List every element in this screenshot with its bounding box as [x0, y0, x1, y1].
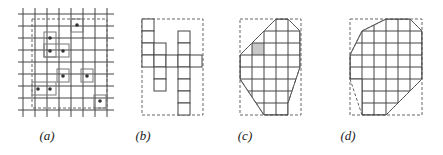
panel-a-point-grid — [18, 8, 114, 117]
panel-b-cell-cover — [142, 19, 203, 115]
grid-cell — [154, 79, 166, 91]
data-point — [85, 74, 89, 78]
grid-cell — [178, 43, 190, 55]
point-cell-box — [32, 82, 56, 95]
grid-cell — [166, 55, 178, 67]
grid-cell — [154, 67, 166, 79]
data-point — [36, 87, 40, 91]
data-point — [75, 23, 79, 27]
dashed-hull-edge — [350, 79, 362, 115]
shaded-cell — [252, 43, 264, 55]
panel-label-d: (d) — [328, 128, 368, 144]
data-point — [61, 49, 65, 53]
grid-cell — [142, 55, 154, 67]
grid-cell — [178, 67, 190, 79]
grid-cell — [154, 43, 166, 55]
hull-cells — [240, 19, 300, 115]
panel-c-hull-grid — [240, 19, 301, 115]
panel-d-hull-grid — [350, 19, 422, 115]
grid-cell — [178, 79, 190, 91]
grid-cell — [142, 31, 154, 43]
panel-label-a: (a) — [27, 128, 67, 144]
grid-cell — [178, 103, 190, 115]
data-point — [48, 87, 52, 91]
grid-cell — [190, 55, 202, 67]
data-point — [61, 74, 65, 78]
grid-cell — [142, 43, 154, 55]
grid-cell — [178, 31, 190, 43]
panel-label-c: (c) — [225, 128, 265, 144]
data-point — [48, 49, 52, 53]
data-point — [48, 36, 52, 40]
panel-label-b: (b) — [123, 128, 163, 144]
data-point — [98, 99, 102, 103]
grid-cell — [178, 91, 190, 103]
grid-cell — [178, 55, 190, 67]
grid-cell — [154, 55, 166, 67]
grid-cell — [142, 19, 154, 31]
